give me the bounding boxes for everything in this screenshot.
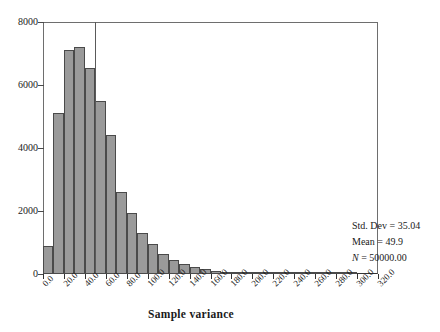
histogram-bar	[64, 50, 74, 274]
mean-reference-line	[95, 22, 96, 274]
histogram-bar	[85, 68, 95, 274]
y-axis-tick-label: 4000	[18, 143, 38, 153]
y-axis-tick	[38, 22, 44, 23]
histogram-bar	[53, 113, 63, 274]
histogram-bar	[116, 192, 126, 274]
n-stat-symbol: N	[352, 252, 359, 263]
histogram-bar	[43, 246, 53, 274]
mean-stat: Mean = 49.9	[352, 234, 420, 250]
std-dev-stat: Std. Dev = 35.04	[352, 218, 420, 234]
y-axis-tick-label: 8000	[18, 17, 38, 27]
n-stat-value: = 50000.00	[359, 252, 407, 263]
y-axis-tick-label: 6000	[18, 80, 38, 90]
y-axis-tick	[38, 148, 44, 149]
histogram-bars	[43, 22, 378, 274]
histogram-bar	[127, 213, 137, 274]
histogram-bar	[74, 47, 84, 274]
histogram-figure: 02000400060008000 0.020.040.060.080.0100…	[0, 0, 440, 332]
x-axis-tick-label: 320.0	[376, 268, 397, 289]
y-axis-tick-label: 2000	[18, 206, 38, 216]
y-axis-tick-label: 0	[33, 269, 38, 279]
x-axis-title: Sample variance	[148, 308, 234, 320]
histogram-bar	[106, 135, 116, 274]
histogram-bar	[95, 101, 105, 274]
n-stat: N = 50000.00	[352, 250, 420, 266]
histogram-bar	[137, 233, 147, 274]
statistics-annotation: Std. Dev = 35.04 Mean = 49.9 N = 50000.0…	[352, 218, 420, 266]
y-axis-tick	[38, 211, 44, 212]
y-axis-tick	[38, 85, 44, 86]
